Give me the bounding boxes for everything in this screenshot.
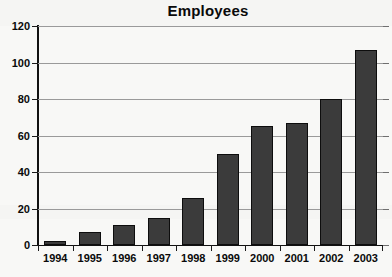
- x-tick-mark-9: [349, 245, 350, 251]
- x-tick-mark-5: [211, 245, 212, 251]
- x-tick-mark-7: [280, 245, 281, 251]
- y-tick-mark-100: [32, 63, 38, 64]
- x-axis-label-1995: 1995: [78, 252, 102, 264]
- y-axis-label-20: 20: [0, 203, 30, 215]
- y-tick-mark-right-60: [383, 136, 389, 137]
- y-tick-mark-right-40: [383, 172, 389, 173]
- bar-1997: [148, 218, 170, 245]
- x-axis-label-2002: 2002: [319, 252, 343, 264]
- x-axis-labels-group: 1994199519961997199819992000200120022003: [38, 252, 383, 270]
- y-tick-mark-right-80: [383, 99, 389, 100]
- x-axis-label-2000: 2000: [250, 252, 274, 264]
- y-tick-mark-80: [32, 99, 38, 100]
- y-tick-mark-right-120: [383, 26, 389, 27]
- y-tick-mark-120: [32, 26, 38, 27]
- bar-1998: [182, 198, 204, 245]
- y-axis-label-60: 60: [0, 130, 30, 142]
- x-axis-label-1998: 1998: [181, 252, 205, 264]
- bar-chart-figure: Employees 020406080100120 19941995199619…: [0, 0, 392, 277]
- y-tick-mark-20: [32, 209, 38, 210]
- y-tick-mark-right-20: [383, 209, 389, 210]
- bar-1996: [113, 225, 135, 245]
- x-axis-label-1999: 1999: [216, 252, 240, 264]
- y-axis-label-100: 100: [0, 57, 30, 69]
- x-tick-mark-3: [142, 245, 143, 251]
- chart-title: Employees: [0, 2, 392, 19]
- plot-area: [38, 26, 383, 245]
- y-tick-mark-40: [32, 172, 38, 173]
- y-axis-label-120: 120: [0, 20, 30, 32]
- bar-2003: [355, 50, 377, 245]
- bar-2002: [320, 99, 342, 245]
- x-axis-label-1997: 1997: [147, 252, 171, 264]
- bar-2000: [251, 126, 273, 245]
- y-axis-label-0: 0: [0, 239, 30, 251]
- x-tick-mark-6: [245, 245, 246, 251]
- y-tick-mark-right-100: [383, 63, 389, 64]
- y-tick-mark-right-0: [383, 245, 389, 246]
- x-axis-ticks-group: [38, 245, 383, 251]
- x-axis-label-1994: 1994: [43, 252, 67, 264]
- y-axis-label-40: 40: [0, 166, 30, 178]
- x-axis-label-2003: 2003: [354, 252, 378, 264]
- bars-group: [38, 26, 383, 245]
- bar-1995: [79, 232, 101, 245]
- bar-1999: [217, 154, 239, 245]
- x-axis-label-2001: 2001: [285, 252, 309, 264]
- x-tick-mark-edge-0: [38, 245, 39, 251]
- x-tick-mark-4: [176, 245, 177, 251]
- y-axis-label-80: 80: [0, 93, 30, 105]
- x-tick-mark-1: [73, 245, 74, 251]
- bar-2001: [286, 123, 308, 245]
- x-tick-mark-edge-10: [382, 245, 383, 251]
- x-axis-label-1996: 1996: [112, 252, 136, 264]
- x-tick-mark-2: [107, 245, 108, 251]
- y-tick-mark-60: [32, 136, 38, 137]
- x-tick-mark-8: [314, 245, 315, 251]
